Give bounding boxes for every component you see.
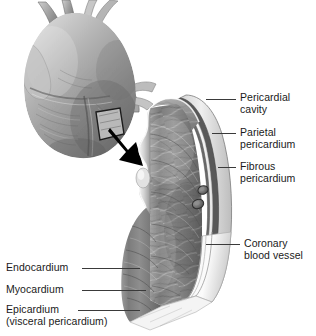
label-parietal-pericardium-line-2: pericardium [240,138,295,150]
label-myocardium-line-1: Myocardium [6,283,64,295]
heart-wall-block [121,94,231,330]
label-endocardium: Endocardium [6,261,68,273]
label-parietal-pericardium-line-1: Parietal [240,126,295,138]
figure-canvas: Pericardial cavity Parietal pericardium … [0,0,316,336]
label-fibrous-pericardium: Fibrous pericardium [240,160,295,184]
label-coronary-blood-vessel-line-2: blood vessel [244,249,303,261]
label-epicardium: Epicardium (visceral pericardium) [6,303,107,327]
label-pericardial-cavity-line-2: cavity [240,103,290,115]
label-coronary-blood-vessel-line-1: Coronary [244,237,303,249]
label-epicardium-line-2: (visceral pericardium) [6,315,107,327]
inset-heart [22,0,156,166]
label-coronary-blood-vessel: Coronary blood vessel [244,237,303,261]
label-endocardium-line-1: Endocardium [6,261,68,273]
label-epicardium-line-1: Epicardium [6,303,107,315]
heart-body [22,13,140,166]
label-parietal-pericardium: Parietal pericardium [240,126,295,150]
cut-window [96,108,124,140]
label-myocardium: Myocardium [6,283,64,295]
label-fibrous-pericardium-line-1: Fibrous [240,160,295,172]
label-fibrous-pericardium-line-2: pericardium [240,172,295,184]
label-pericardial-cavity-line-1: Pericardial [240,91,290,103]
label-pericardial-cavity: Pericardial cavity [240,91,290,115]
